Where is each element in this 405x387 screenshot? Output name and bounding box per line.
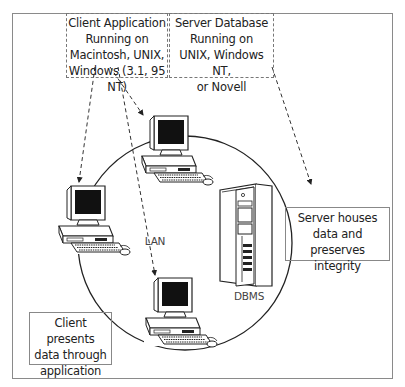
callout-line: Running on bbox=[67, 31, 167, 47]
callout-line: Server Database bbox=[170, 15, 273, 31]
callout-line: Client presents bbox=[30, 315, 111, 347]
callout-line: Windows (3.1, 95 NT) bbox=[67, 63, 167, 95]
server-tower bbox=[220, 182, 272, 287]
client-bottom-computer bbox=[144, 278, 217, 347]
callout-line: data through bbox=[30, 347, 111, 363]
callout-line: application bbox=[30, 363, 111, 379]
callout-line: UNIX, Windows NT, bbox=[170, 47, 273, 79]
callout-line: Server houses bbox=[286, 210, 389, 226]
callout-line: Client Application bbox=[67, 15, 167, 31]
dbms-label: DBMS bbox=[229, 288, 269, 304]
client-application-callout: Client Application Running on Macintosh,… bbox=[66, 13, 168, 78]
lan-label: LAN bbox=[140, 233, 170, 249]
callout-line: Macintosh, UNIX, bbox=[67, 47, 167, 63]
client-role-callout: Client presents data through application bbox=[29, 312, 112, 365]
client-top-computer bbox=[140, 116, 213, 185]
client-left-computer bbox=[57, 186, 130, 255]
arrow-to-server bbox=[272, 67, 311, 184]
callout-line: data and bbox=[286, 226, 389, 242]
callout-line: preserves integrity bbox=[286, 242, 389, 274]
callout-line: Running on bbox=[170, 31, 273, 47]
callout-line: or Novell bbox=[170, 79, 273, 95]
server-role-callout: Server houses data and preserves integri… bbox=[285, 207, 390, 261]
server-database-callout: Server Database Running on UNIX, Windows… bbox=[169, 13, 274, 78]
